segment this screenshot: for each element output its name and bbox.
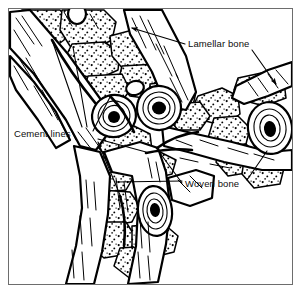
label-lamellar-bone: Lamellar bone bbox=[188, 38, 250, 49]
label-cement-lines: Cement lines bbox=[14, 128, 71, 139]
lamellar-bone-trabeculae bbox=[10, 10, 292, 284]
label-woven-bone: Woven bone bbox=[185, 178, 239, 189]
bone-histology-drawing bbox=[0, 0, 304, 294]
bone-histology-figure: Lamellar bone Cement lines Woven bone bbox=[0, 0, 304, 294]
osteon-small-top bbox=[68, 4, 86, 24]
